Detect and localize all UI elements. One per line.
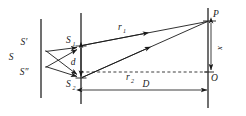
- figure-canvas: S′ S S″ S 1 S 2 d r 1 r 2 P O: [0, 0, 246, 116]
- label-ray-r1: r 1: [118, 22, 126, 34]
- double-slit-diagram: S′ S S″ S 1 S 2 d r 1 r 2 P O: [0, 0, 246, 116]
- label-point-o: O: [211, 73, 218, 83]
- label-screen-distance: D: [142, 79, 150, 89]
- label-slit-bottom-base: S: [66, 79, 71, 89]
- label-screen-offset: x: [216, 45, 225, 50]
- label-source: S: [9, 52, 14, 62]
- label-ray-r2: r 2: [126, 72, 134, 84]
- label-slit-top-subscript: 1: [73, 41, 76, 47]
- label-ray-r2-subscript: 2: [131, 78, 134, 84]
- label-slit-bottom: S 2: [66, 79, 76, 91]
- label-slit-top: S 1: [66, 35, 76, 47]
- ray-r1-direction-arrow: [82, 33, 146, 45]
- label-slit-bottom-subscript: 2: [73, 85, 76, 91]
- label-ray-r1-subscript: 1: [123, 28, 126, 34]
- label-point-p: P: [212, 9, 219, 19]
- label-source-double-prime: S″: [20, 67, 30, 77]
- ray-r2-direction-arrow: [82, 48, 148, 78]
- label-source-prime: S′: [21, 37, 29, 47]
- label-slit-top-base: S: [66, 35, 71, 45]
- label-slit-separation: d: [71, 57, 76, 67]
- label-ray-r1-base: r: [118, 22, 122, 32]
- label-ray-r2-base: r: [126, 72, 130, 82]
- ray-sprime-to-slit1: [46, 48, 78, 52]
- ray-sdoubleprime-to-slit2: [46, 67, 78, 77]
